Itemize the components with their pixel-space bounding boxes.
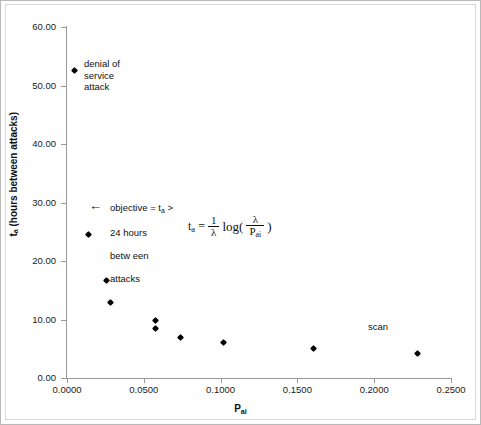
- y-axis-title-sub: a: [11, 229, 20, 233]
- formula-lhs: ta: [188, 219, 195, 234]
- data-point: [152, 317, 159, 324]
- annotation-objective-line2: 24 hours: [110, 227, 173, 239]
- x-tick-label: 0.0000: [37, 385, 97, 395]
- annotation-objective-line3: betw een: [110, 250, 173, 262]
- y-axis-title-base: t: [8, 233, 19, 236]
- formula-coefficient-fraction: 1 λ: [208, 215, 220, 238]
- y-axis-title: ta (hours between attacks): [8, 64, 21, 284]
- x-axis-title-sub: ai: [241, 407, 247, 416]
- x-axis-title-base: P: [234, 403, 241, 414]
- formula-coefficient-denominator: λ: [208, 226, 219, 238]
- annotation-objective-line1: objective = ta >: [110, 202, 173, 216]
- x-axis-line: [66, 378, 452, 379]
- data-point: [106, 299, 113, 306]
- y-tick-label: 10.00: [10, 315, 56, 325]
- chart-figure: 0.0010.0020.0030.0040.0050.0060.00 0.000…: [0, 0, 481, 425]
- y-axis-title-rest: (hours between attacks): [8, 112, 19, 229]
- data-point: [85, 231, 92, 238]
- annotation-denial-of-service: denial of service attack: [84, 58, 120, 93]
- formula-equals: =: [198, 219, 205, 234]
- annotation-scan: scan: [368, 321, 388, 333]
- x-tick-label: 0.1500: [267, 385, 327, 395]
- formula-log: log(: [222, 219, 243, 235]
- data-point: [71, 67, 78, 74]
- formula-inner-denominator: Pai: [246, 225, 264, 240]
- y-tick-label: 0.00: [10, 373, 56, 383]
- data-point: [102, 277, 109, 284]
- x-tick-label: 0.2500: [421, 385, 481, 395]
- formula-inner-denominator-sub: ai: [256, 230, 262, 239]
- formula-coefficient-numerator: 1: [208, 215, 220, 226]
- x-tick-label: 0.1000: [191, 385, 251, 395]
- x-tick-label: 0.0500: [114, 385, 174, 395]
- data-point: [310, 345, 317, 352]
- x-tick-mark: [67, 378, 68, 383]
- x-tick-mark: [297, 378, 298, 383]
- x-axis-title: Pai: [0, 403, 481, 416]
- formula-inner-fraction: λ Pai: [246, 214, 264, 240]
- data-point: [414, 350, 421, 357]
- objective-pre: objective = t: [110, 202, 161, 213]
- annotation-objective: objective = ta > 24 hours betw een attac…: [110, 190, 173, 296]
- annotation-objective-line4: attacks: [110, 273, 173, 285]
- x-tick-label: 0.2000: [344, 385, 404, 395]
- data-point: [152, 325, 159, 332]
- y-tick-label: 60.00: [10, 22, 56, 32]
- data-point: [220, 339, 227, 346]
- objective-post: >: [165, 202, 173, 213]
- data-point: [177, 334, 184, 341]
- x-tick-mark: [451, 378, 452, 383]
- x-tick-mark: [144, 378, 145, 383]
- formula-close-paren: ): [267, 219, 271, 235]
- x-tick-mark: [374, 378, 375, 383]
- objective-arrow-icon: ←: [89, 200, 102, 211]
- formula-lhs-sub: a: [191, 224, 195, 234]
- formula-inner-numerator: λ: [250, 214, 261, 225]
- formula-expression: ta = 1 λ log( λ Pai ): [188, 214, 272, 240]
- x-tick-mark: [221, 378, 222, 383]
